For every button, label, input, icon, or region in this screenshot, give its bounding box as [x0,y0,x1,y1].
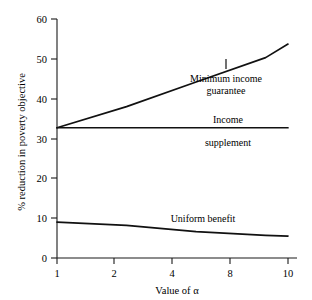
y-tick-label-40: 40 [37,94,48,105]
line-chart: 0 10 20 30 40 50 60 1 2 4 8 10 Value of … [0,0,312,300]
y-axis-tick-labels: 0 10 20 30 40 50 60 [37,14,48,264]
x-tick-label-1: 1 [54,268,59,279]
annotation-is-line2: supplement [205,137,251,148]
series-line-minimum-income-guarantee [57,44,288,128]
annotation-mig-line1: Minimum income [190,73,263,84]
x-axis-tick-labels: 1 2 4 8 10 [54,268,293,279]
y-tick-label-30: 30 [37,134,48,145]
y-tick-label-0: 0 [42,253,47,264]
annotation-is-line1: Income [213,114,244,125]
series-line-uniform-benefit [57,222,288,236]
annotation-minimum-income-guarantee: Minimum income guarantee [190,73,263,96]
annotation-uniform-benefit: Uniform benefit [171,213,236,224]
y-tick-label-60: 60 [37,14,48,25]
y-axis-ticks [51,19,57,258]
x-tick-label-2: 2 [111,268,116,279]
y-axis-title: % reduction in poverty objective [16,73,27,211]
x-tick-label-10: 10 [283,268,294,279]
y-tick-label-50: 50 [37,54,48,65]
x-axis-title: Value of α [155,285,199,296]
annotation-mig-line2: guarantee [207,85,246,96]
x-tick-label-4: 4 [169,268,175,279]
y-tick-label-10: 10 [37,213,48,224]
annotation-ub-line1: Uniform benefit [171,213,236,224]
chart-figure: 0 10 20 30 40 50 60 1 2 4 8 10 Value of … [0,0,312,300]
annotation-income-supplement: Income supplement [205,114,251,148]
x-tick-label-8: 8 [227,268,232,279]
y-tick-label-20: 20 [37,173,48,184]
x-axis-ticks [57,258,288,264]
